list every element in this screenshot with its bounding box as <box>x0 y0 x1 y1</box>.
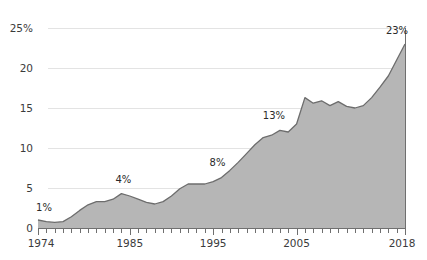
y-tick-label-0: 0 <box>26 222 33 234</box>
data-label-8pct: 8% <box>210 157 226 168</box>
x-tick-label-1985: 1985 <box>116 237 143 249</box>
x-tick-label-1974: 1974 <box>28 237 55 249</box>
data-label-1pct: 1% <box>36 202 52 213</box>
y-tick-label-10: 10 <box>20 142 33 154</box>
data-label-23pct: 23% <box>386 25 408 36</box>
x-tick-label-2005: 2005 <box>283 237 310 249</box>
y-tick-label-25: 25% <box>10 22 33 34</box>
x-tick-label-2018: 2018 <box>389 237 416 249</box>
chart-svg: 0510152025% 19741985199520052018 1%4%8%1… <box>0 0 427 260</box>
data-label-4pct: 4% <box>115 174 131 185</box>
data-label-13pct: 13% <box>263 110 285 121</box>
y-tick-label-20: 20 <box>20 62 33 74</box>
area-chart: 0510152025% 19741985199520052018 1%4%8%1… <box>0 0 427 260</box>
y-tick-label-5: 5 <box>26 182 33 194</box>
y-tick-label-15: 15 <box>20 102 33 114</box>
x-tick-label-1995: 1995 <box>200 237 227 249</box>
